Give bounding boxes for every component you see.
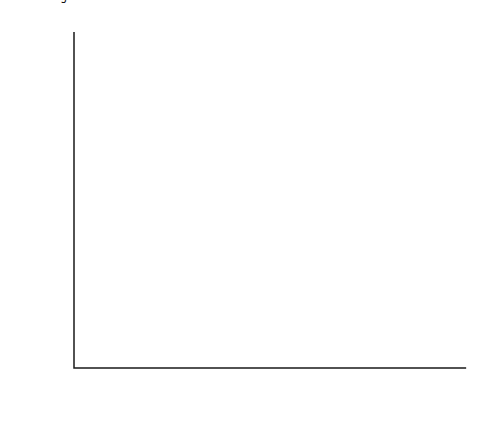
axes [74,32,466,368]
chart-figure: the number of processing units average l… [0,0,483,433]
chart-canvas: the number of processing units average l… [0,0,483,433]
axis-spines [74,32,466,368]
y-axis-title: average loss [0,0,45,3]
